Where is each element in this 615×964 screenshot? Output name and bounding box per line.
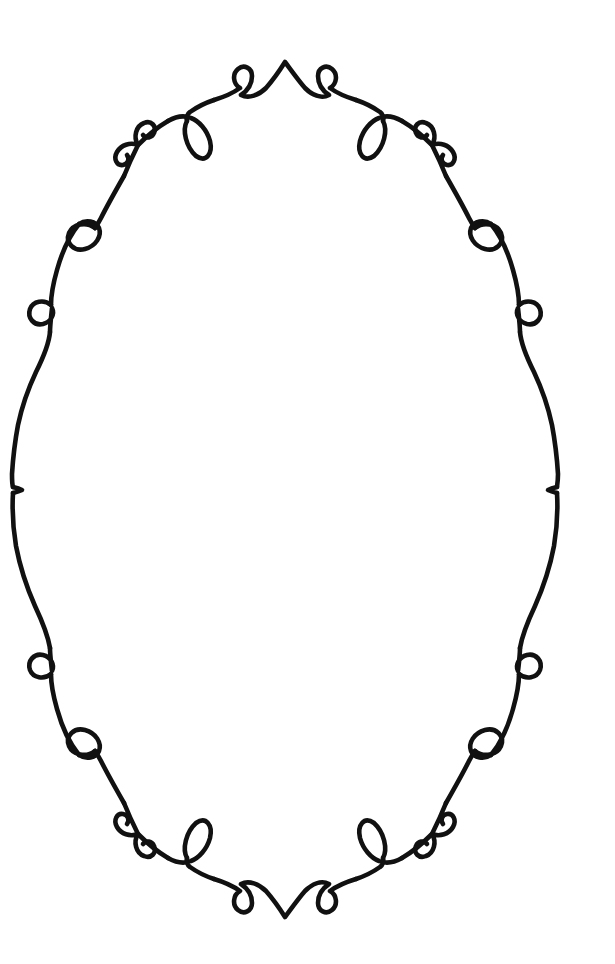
lower-right-ascent-path xyxy=(446,751,475,803)
lower-right-standing-loop-path xyxy=(359,821,402,863)
right-upper-flank-path xyxy=(491,224,519,305)
top-arc-group xyxy=(12,62,558,917)
left-lower-flank-path xyxy=(51,674,79,755)
decorative-oval-frame xyxy=(0,0,615,964)
corner-curl-bottom-right-path xyxy=(415,803,454,857)
low-right-round-loop-path xyxy=(517,648,541,677)
top-center-peak-path xyxy=(214,62,356,100)
upper-left-descent-path xyxy=(95,176,124,228)
right-flank-upper-path xyxy=(520,332,558,487)
upper-left-hanging-loop-path xyxy=(168,117,211,159)
corner-curl-top-left-path xyxy=(115,122,154,176)
upper-right-hanging-loop-path xyxy=(359,117,402,159)
corner-curl-top-right-path xyxy=(415,122,454,176)
left-flank-upper-path xyxy=(12,332,50,487)
upper-right-descent-path xyxy=(446,176,475,228)
right-lower-flank-path xyxy=(491,674,519,755)
artwork-canvas: Decorative Oval Scroll Frame A single co… xyxy=(0,0,615,964)
left-upper-flank-path xyxy=(51,224,79,305)
corner-curl-bottom-left-path xyxy=(115,803,154,857)
lower-left-standing-loop-path xyxy=(168,821,211,863)
bottom-center-valley-path xyxy=(214,879,356,917)
lower-left-ascent-path xyxy=(95,751,124,803)
left-flank-lower-path xyxy=(13,493,50,648)
right-flank-lower-path xyxy=(520,493,557,648)
mid-left-round-loop-path xyxy=(29,302,53,332)
